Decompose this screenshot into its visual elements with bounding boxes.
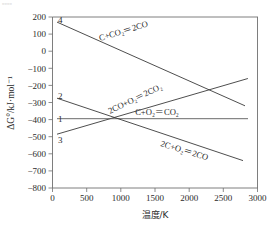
equation-label-line3: 2C+O₂＝2CO xyxy=(159,138,209,162)
equation-label-line4: C+CO₂＝2CO xyxy=(98,19,149,43)
y-tick-label-100: 100 xyxy=(33,29,47,39)
x-tick-group xyxy=(53,188,258,192)
y-tick-label-m400: −400 xyxy=(27,115,46,125)
x-tick-label-0: 0 xyxy=(50,193,55,203)
y-tick-label-m600: −600 xyxy=(27,149,46,159)
y-tick-label-m100: −100 xyxy=(27,64,46,74)
x-axis-title: 温度/K xyxy=(142,209,170,220)
curve-number-1: 1 xyxy=(58,114,63,124)
x-tick-label-2000: 2000 xyxy=(180,193,199,203)
curve-number-2: 2 xyxy=(58,91,63,101)
y-tick-label-m800: −800 xyxy=(27,183,46,193)
curve-number-4: 4 xyxy=(58,15,63,25)
y-tick-labels: 200 100 0 −100 −200 −300 −400 −500 −600 … xyxy=(27,12,46,193)
x-tick-label-2500: 2500 xyxy=(214,193,233,203)
y-tick-label-m700: −700 xyxy=(27,166,46,176)
y-axis-title: ΔG°/kJ·mol⁻¹ xyxy=(6,76,16,130)
y-tick-label-200: 200 xyxy=(33,12,47,22)
top-fragment-text: ▫▫▫▫ xyxy=(2,0,12,8)
ellingham-chart-svg: ▫▫▫▫ 200 100 0 −100 −200 −300 −400 −500 … xyxy=(0,0,277,226)
y-tick-label-m300: −300 xyxy=(27,98,46,108)
x-tick-label-500: 500 xyxy=(80,193,94,203)
x-tick-label-3000: 3000 xyxy=(249,193,268,203)
curve-number-3: 3 xyxy=(58,135,63,145)
equation-label-line1: C+O₂＝CO₂ xyxy=(135,107,179,117)
y-tick-label-m500: −500 xyxy=(27,132,46,142)
x-tick-label-1000: 1000 xyxy=(112,193,131,203)
y-tick-label-m200: −200 xyxy=(27,81,46,91)
y-tick-label-0: 0 xyxy=(42,46,47,56)
y-tick-group xyxy=(49,17,53,188)
chart-container: ▫▫▫▫ 200 100 0 −100 −200 −300 −400 −500 … xyxy=(0,0,277,226)
x-tick-labels: 0 500 1000 1500 2000 2500 3000 xyxy=(50,193,267,203)
x-tick-label-1500: 1500 xyxy=(146,193,165,203)
